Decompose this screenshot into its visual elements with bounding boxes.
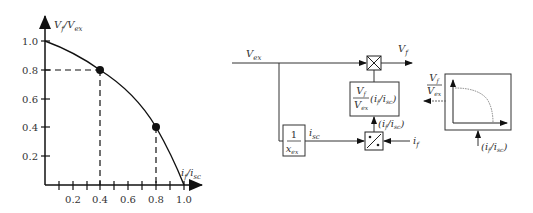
y-axis-label: Vf/Vex (54, 19, 83, 33)
y-tick-0.2: 0.2 (22, 151, 38, 162)
lookup-input-label: (if/isc) (481, 141, 507, 154)
vex-label: Vex (246, 48, 261, 62)
gain-numerator: 1 (291, 129, 297, 140)
point-0.4-0.8 (96, 66, 104, 74)
y-tick-0.4: 0.4 (22, 122, 38, 133)
characteristic-chart: 1.0 0.8 0.6 0.4 0.2 0.2 0.4 0.6 0.8 1.0 (22, 16, 202, 205)
lookup-output-denominator: Vex (427, 85, 442, 97)
y-tick-1.0: 1.0 (22, 36, 38, 47)
gain-block-1-over-xex: 1 xex (283, 125, 305, 156)
x-tick-0.8: 0.8 (148, 194, 164, 205)
y-tick-labels: 1.0 0.8 0.6 0.4 0.2 (22, 36, 38, 162)
lookup-table-block (445, 74, 511, 130)
divider-block (365, 132, 383, 150)
guide-lines (45, 70, 156, 185)
block-diagram: Vex Vf 1 xex isc if (232, 43, 511, 156)
lookup-output-numerator: Vf (429, 72, 440, 85)
function-block: Vf Vex (if/isc) (350, 82, 399, 116)
ratio-label: (if/isc) (378, 118, 404, 131)
x-axis-label: if/isc (181, 167, 201, 181)
isc-label: isc (309, 127, 320, 141)
vf-output-label: Vf (398, 43, 409, 57)
if-label: if (413, 135, 420, 149)
multiplier-block (367, 56, 381, 70)
x-tick-1.0: 1.0 (176, 194, 192, 205)
point-0.8-0.4 (152, 123, 160, 131)
y-tick-0.6: 0.6 (22, 94, 38, 105)
x-tick-0.6: 0.6 (120, 194, 136, 205)
x-tick-labels: 0.2 0.4 0.6 0.8 1.0 (65, 194, 192, 205)
figure: 1.0 0.8 0.6 0.4 0.2 0.2 0.4 0.6 0.8 1.0 (0, 0, 533, 213)
x-tick-0.4: 0.4 (92, 194, 108, 205)
x-tick-0.2: 0.2 (65, 194, 81, 205)
y-tick-0.8: 0.8 (22, 65, 38, 76)
characteristic-curve (45, 41, 184, 185)
